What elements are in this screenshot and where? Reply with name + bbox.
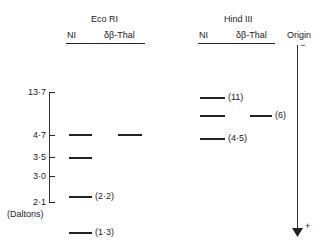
axis-tick-label: 2·1 xyxy=(33,197,46,207)
band-ecori-ni xyxy=(69,232,92,234)
band-size-label: (2·2) xyxy=(95,191,114,201)
axis-tick-label: 13·7 xyxy=(28,87,46,97)
band-ecori-ni xyxy=(69,134,92,136)
band-ecori-ni xyxy=(69,157,92,159)
band-size-label: (1·3) xyxy=(95,227,114,237)
band-size-label: (4·5) xyxy=(228,133,247,143)
axis-tick xyxy=(49,157,55,158)
hind-iii-title: Hind III xyxy=(224,14,253,24)
eco-ri-lane-thal: δβ-Thal xyxy=(104,30,135,40)
hind-iii-lane-thal: δβ-Thal xyxy=(236,30,267,40)
band-ecori-thal xyxy=(118,134,142,136)
axis-tick-label: 3·0 xyxy=(33,171,46,181)
band-hind-ni xyxy=(200,115,225,117)
band-hind-ni xyxy=(200,138,225,140)
migration-arrow-line xyxy=(297,45,298,230)
axis-tick xyxy=(49,202,55,203)
eco-ri-lane-ni: NI xyxy=(67,30,76,40)
band-size-label: (6) xyxy=(275,110,286,120)
band-size-label: (11) xyxy=(228,92,243,102)
hind-iii-underline xyxy=(198,43,275,44)
arrow-down-icon xyxy=(292,228,303,237)
band-hind-thal xyxy=(250,115,272,117)
hind-iii-lane-ni: NI xyxy=(199,30,208,40)
eco-ri-underline xyxy=(66,43,145,44)
band-ecori-ni xyxy=(69,196,92,198)
axis-tick xyxy=(49,92,55,93)
axis-tick-label: 4·7 xyxy=(33,130,46,140)
plus-sign: + xyxy=(305,221,310,231)
axis-unit-label: (Daltons) xyxy=(7,209,44,219)
origin-label: Origin xyxy=(287,30,311,40)
axis-tick-label: 3·5 xyxy=(33,152,46,162)
size-axis xyxy=(49,92,50,203)
band-hind-ni xyxy=(200,97,225,99)
minus-sign: − xyxy=(300,40,305,50)
axis-tick xyxy=(49,176,55,177)
axis-tick xyxy=(49,135,55,136)
eco-ri-title: Eco RI xyxy=(91,14,118,24)
